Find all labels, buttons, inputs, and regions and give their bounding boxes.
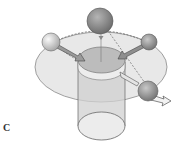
sphere-right bbox=[141, 34, 157, 50]
panel-label: C bbox=[3, 122, 10, 133]
disk-top bbox=[78, 47, 125, 73]
sphere-top bbox=[87, 8, 113, 34]
sphere-bottom-right bbox=[138, 81, 158, 101]
sphere-left bbox=[42, 33, 60, 51]
cylinder-bottom bbox=[78, 112, 125, 140]
diagram-figure bbox=[0, 0, 181, 148]
